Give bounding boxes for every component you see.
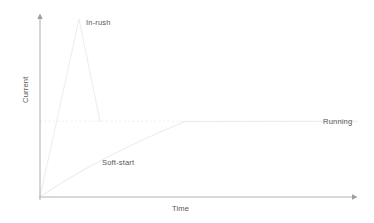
inrush-curve — [40, 19, 101, 197]
plot-area — [0, 0, 374, 223]
current-vs-time-figure: Current Time In-rush Soft-start Running — [0, 0, 374, 223]
y-axis-arrow-icon — [37, 14, 42, 20]
x-axis-arrow-icon — [352, 194, 358, 199]
softstart-curve — [40, 121, 357, 197]
inrush-annotation-label: In-rush — [86, 19, 111, 27]
softstart-annotation-label: Soft-start — [102, 159, 134, 167]
x-axis-label: Time — [172, 205, 189, 213]
running-annotation-label: Running — [323, 118, 352, 126]
y-axis-label: Current — [22, 77, 30, 103]
